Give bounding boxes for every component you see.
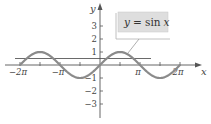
sine-chart: y= sinx x −2π−ππ2π y 321−1−2−3 (0, 0, 211, 124)
y-tick-label: 3 (92, 21, 97, 31)
legend-leader-line (128, 39, 139, 53)
legend-callout: y= sinx (116, 12, 170, 53)
y-tick-label: 2 (92, 34, 97, 44)
y-axis-label: y (89, 3, 96, 14)
y-axis: y 321−1−2−3 (84, 3, 103, 118)
x-tick-label: π (134, 67, 141, 77)
x-tick-label: −2π (9, 67, 28, 77)
x-axis-label: x (201, 66, 207, 77)
y-axis-arrow-icon (98, 3, 103, 10)
y-tick-label: −3 (84, 99, 97, 109)
y-tick-label: 1 (92, 47, 97, 57)
y-tick-label: −2 (84, 86, 97, 96)
